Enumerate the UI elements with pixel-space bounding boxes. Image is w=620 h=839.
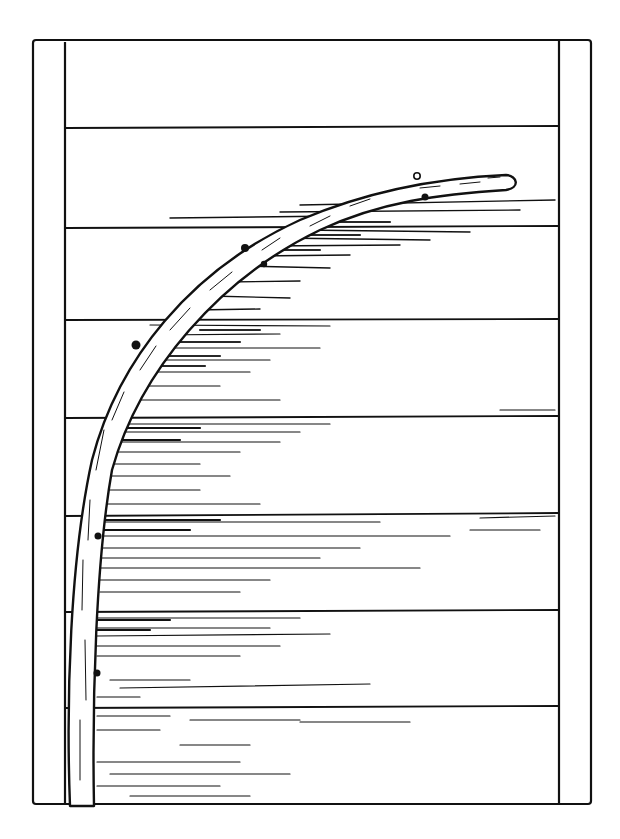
nail-icon bbox=[422, 194, 429, 201]
illustration: Line drawing of a curved branch nailed a… bbox=[0, 0, 620, 839]
nail-icon bbox=[132, 341, 141, 350]
nail-icon bbox=[95, 533, 102, 540]
nail-icon bbox=[94, 670, 101, 677]
nail-icon bbox=[414, 173, 420, 179]
nail-icon bbox=[261, 261, 267, 267]
nail-icon bbox=[241, 244, 249, 252]
drawing-canvas bbox=[0, 0, 620, 839]
